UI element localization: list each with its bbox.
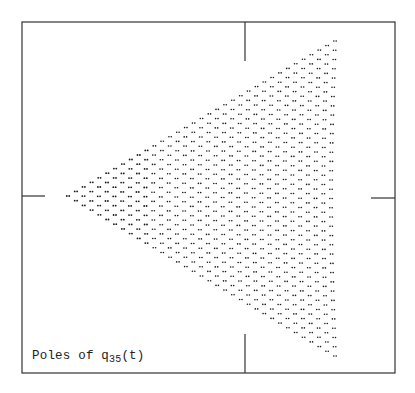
pole-point xyxy=(252,225,254,227)
pole-point xyxy=(323,304,325,306)
pole-point xyxy=(311,313,313,315)
pole-point xyxy=(269,95,271,97)
pole-point xyxy=(214,146,216,148)
pole-point xyxy=(331,300,333,302)
pole-point xyxy=(333,96,335,98)
pole-point xyxy=(237,252,239,254)
pole-point xyxy=(299,244,301,246)
pole-point xyxy=(324,249,326,251)
pole-point xyxy=(192,271,194,273)
pole-point xyxy=(293,82,295,84)
pole-point xyxy=(329,198,331,200)
pole-point xyxy=(244,155,246,157)
pole-point xyxy=(247,155,249,157)
pole-point xyxy=(198,146,200,148)
pole-point xyxy=(199,257,201,259)
pole-point xyxy=(293,230,295,232)
pole-point xyxy=(107,182,109,184)
pole-point xyxy=(259,202,261,204)
pole-point xyxy=(301,244,303,246)
pole-point xyxy=(256,104,258,106)
pole-point xyxy=(247,229,249,231)
pole-point xyxy=(321,184,323,186)
pole-point xyxy=(329,207,331,209)
pole-point xyxy=(97,186,99,188)
pole-point xyxy=(319,337,321,339)
pole-point xyxy=(205,197,207,199)
pole-point xyxy=(307,258,309,260)
pole-point xyxy=(169,210,171,212)
pole-point xyxy=(152,154,154,156)
pole-point xyxy=(177,224,179,226)
pole-point xyxy=(277,304,279,306)
pole-point xyxy=(147,159,149,161)
pole-point xyxy=(192,215,194,217)
pole-point xyxy=(217,266,219,268)
pole-point xyxy=(262,183,264,185)
pole-point xyxy=(215,201,217,203)
pole-point xyxy=(160,252,162,254)
pole-point xyxy=(185,173,187,175)
pole-point xyxy=(207,261,209,263)
pole-point xyxy=(154,191,156,193)
pole-point xyxy=(261,276,263,278)
pole-point xyxy=(107,200,109,202)
pole-point xyxy=(279,285,281,287)
pole-point xyxy=(296,63,298,65)
pole-point xyxy=(316,77,318,79)
pole-point xyxy=(66,195,68,197)
pole-point xyxy=(252,206,254,208)
pole-point xyxy=(283,207,285,209)
pole-point xyxy=(262,211,264,213)
pole-point xyxy=(316,96,318,98)
pole-point xyxy=(206,169,208,171)
pole-point xyxy=(293,211,295,213)
pole-point xyxy=(208,206,210,208)
pole-point xyxy=(293,183,295,185)
pole-point xyxy=(246,100,248,102)
pole-point xyxy=(144,214,146,216)
pole-point xyxy=(105,182,107,184)
pole-point xyxy=(262,294,264,296)
pole-point xyxy=(247,257,249,259)
pole-point xyxy=(302,58,304,60)
pole-point xyxy=(325,119,327,121)
pole-point xyxy=(193,141,195,143)
pole-point xyxy=(327,323,329,325)
pole-point xyxy=(168,256,170,258)
pole-point xyxy=(334,77,336,79)
pole-point xyxy=(322,147,324,149)
pole-point xyxy=(146,177,148,179)
pole-point xyxy=(217,118,219,120)
pole-point xyxy=(295,91,297,93)
pole-point xyxy=(331,290,333,292)
pole-point xyxy=(230,137,232,139)
pole-point xyxy=(123,163,125,165)
pole-point xyxy=(252,160,254,162)
pole-point xyxy=(239,206,241,208)
pole-point xyxy=(269,281,271,283)
pole-point xyxy=(107,209,109,211)
pole-point xyxy=(255,141,257,143)
pole-point xyxy=(182,182,184,184)
pole-point xyxy=(314,207,316,209)
pole-point xyxy=(206,234,208,236)
pole-point xyxy=(253,280,255,282)
pole-point xyxy=(270,216,272,218)
pole-point xyxy=(285,188,287,190)
pole-point xyxy=(270,206,272,208)
pole-point xyxy=(170,145,172,147)
pole-point xyxy=(333,290,335,292)
pole-point xyxy=(167,238,169,240)
pole-point xyxy=(244,211,246,213)
pole-point xyxy=(304,68,306,70)
pole-point xyxy=(290,221,292,223)
pole-point xyxy=(240,252,242,254)
pole-point xyxy=(169,182,171,184)
pole-point xyxy=(323,91,325,93)
pole-point xyxy=(191,150,193,152)
pole-point xyxy=(276,137,278,139)
pole-point xyxy=(331,198,333,200)
pole-point xyxy=(293,146,295,148)
pole-point xyxy=(330,124,332,126)
